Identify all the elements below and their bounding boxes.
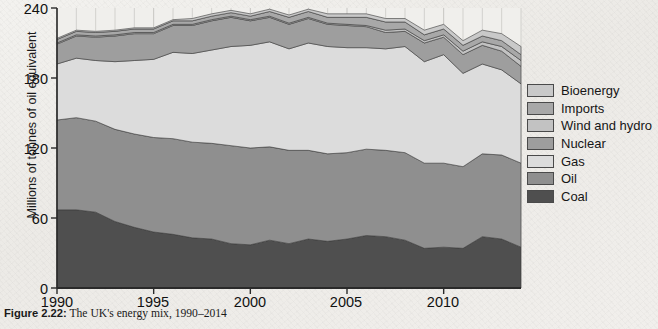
legend-label-wind-and-hydro: Wind and hydro [561, 118, 652, 133]
legend-item-oil: Oil [527, 170, 655, 188]
figure-caption: Figure 2.22: The UK's energy mix, 1990–2… [4, 307, 524, 320]
legend-label-gas: Gas [561, 154, 585, 169]
legend-item-bioenergy: Bioenergy [527, 82, 655, 100]
chart-legend: Bioenergy Imports Wind and hydro Nuclear… [527, 82, 655, 205]
legend-item-coal: Coal [527, 188, 655, 206]
legend-swatch-wind-and-hydro [527, 119, 554, 132]
legend-label-oil: Oil [561, 171, 577, 186]
legend-item-gas: Gas [527, 152, 655, 170]
legend-item-nuclear: Nuclear [527, 135, 655, 153]
legend-swatch-nuclear [527, 137, 554, 150]
legend-swatch-bioenergy [527, 84, 554, 97]
legend-label-imports: Imports [561, 101, 604, 116]
legend-item-imports: Imports [527, 100, 655, 118]
legend-swatch-imports [527, 102, 554, 115]
legend-swatch-coal [527, 190, 554, 203]
legend-swatch-gas [527, 155, 554, 168]
legend-label-nuclear: Nuclear [561, 136, 606, 151]
legend-label-coal: Coal [561, 189, 588, 204]
figure-caption-text: The UK's energy mix, 1990–2014 [67, 307, 227, 320]
legend-item-wind-and-hydro: Wind and hydro [527, 117, 655, 135]
figure-energy-mix: Millions of tonnes of oil equivalent 240… [0, 0, 658, 329]
figure-number: Figure 2.22: [4, 307, 67, 319]
legend-label-bioenergy: Bioenergy [561, 83, 620, 98]
legend-swatch-oil [527, 172, 554, 185]
